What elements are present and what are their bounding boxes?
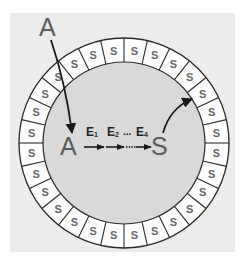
ring-cell-label: S (90, 49, 97, 61)
product-label: S (151, 134, 168, 159)
ring-cell-label: S (186, 203, 193, 215)
ellipsis-label: ... (123, 127, 131, 137)
ring-cell-label: S (42, 186, 49, 198)
diagram-canvas: SSSSSSSSSSSSSSSSSSSSSSSSSSSS A A S E1 E2… (0, 0, 245, 264)
ring-cell-label: S (28, 127, 35, 139)
ring-cell-label: S (199, 88, 206, 100)
ring-cell-label: S (55, 203, 62, 215)
ring-cell-label: S (90, 225, 97, 237)
ring-cell-label: S (208, 168, 215, 180)
ring-cell-label: S (170, 58, 177, 70)
ring-cell-label: S (208, 106, 215, 118)
ring-cell-label: S (170, 216, 177, 228)
ring-cell-label: S (42, 88, 49, 100)
ring-cell-label: S (131, 229, 138, 241)
ring-cell-label: S (151, 49, 158, 61)
inside-substrate-label: A (60, 134, 77, 159)
ring-cell-label: S (131, 45, 138, 57)
ring-cell-label: S (110, 45, 117, 57)
enzyme-e4-label: E4 (136, 126, 148, 138)
ring-cell-label: S (33, 168, 40, 180)
outside-substrate-label: A (39, 15, 56, 40)
ring-cell-label: S (213, 147, 220, 159)
ring-cell-label: S (33, 106, 40, 118)
ring-cell-label: S (110, 229, 117, 241)
ring-cell-label: S (71, 58, 78, 70)
ring-cell-label: S (71, 216, 78, 228)
ring-cell-label: S (28, 147, 35, 159)
ring-cell-label: S (213, 127, 220, 139)
enzyme-e1-label: E1 (86, 126, 98, 138)
ring-cell-label: S (186, 71, 193, 83)
ring-cell-label: S (199, 186, 206, 198)
ring-cell-label: S (151, 225, 158, 237)
enzyme-e2-label: E2 (107, 126, 119, 138)
